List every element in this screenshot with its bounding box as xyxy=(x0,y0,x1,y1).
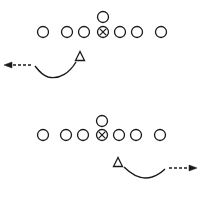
play-diagram xyxy=(0,0,202,199)
play-diagram-canvas xyxy=(0,0,202,199)
